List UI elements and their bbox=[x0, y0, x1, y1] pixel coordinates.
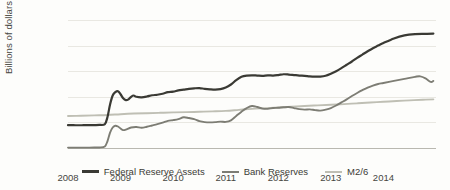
legend-label: Bank Reserves bbox=[244, 166, 308, 177]
y-axis-title: Billions of dollars bbox=[3, 0, 14, 98]
series-line-bank-reserves bbox=[68, 76, 433, 147]
legend-line-swatch bbox=[222, 171, 239, 173]
legend-label: Federal Reserve Assets bbox=[104, 166, 205, 177]
series-line-federal-reserve-assets bbox=[68, 34, 433, 126]
legend-line-swatch bbox=[82, 170, 99, 172]
chart-container: Billions of dollars 01,0002,0003,0004,00… bbox=[0, 0, 450, 190]
legend-label: M2/6 bbox=[347, 166, 368, 177]
chart-legend: Federal Reserve AssetsBank ReservesM2/6 bbox=[0, 166, 450, 177]
gridline-0 bbox=[68, 148, 436, 149]
legend-line-swatch bbox=[325, 171, 342, 173]
legend-item-m2-6[interactable]: M2/6 bbox=[325, 166, 368, 177]
series-lines-group bbox=[68, 20, 436, 148]
legend-item-bank-reserves[interactable]: Bank Reserves bbox=[222, 166, 308, 177]
plot-area: 01,0002,0003,0004,0005,000 2008200920102… bbox=[68, 20, 436, 148]
series-line-m2-6 bbox=[68, 99, 433, 116]
legend-item-federal-reserve-assets[interactable]: Federal Reserve Assets bbox=[82, 166, 205, 177]
